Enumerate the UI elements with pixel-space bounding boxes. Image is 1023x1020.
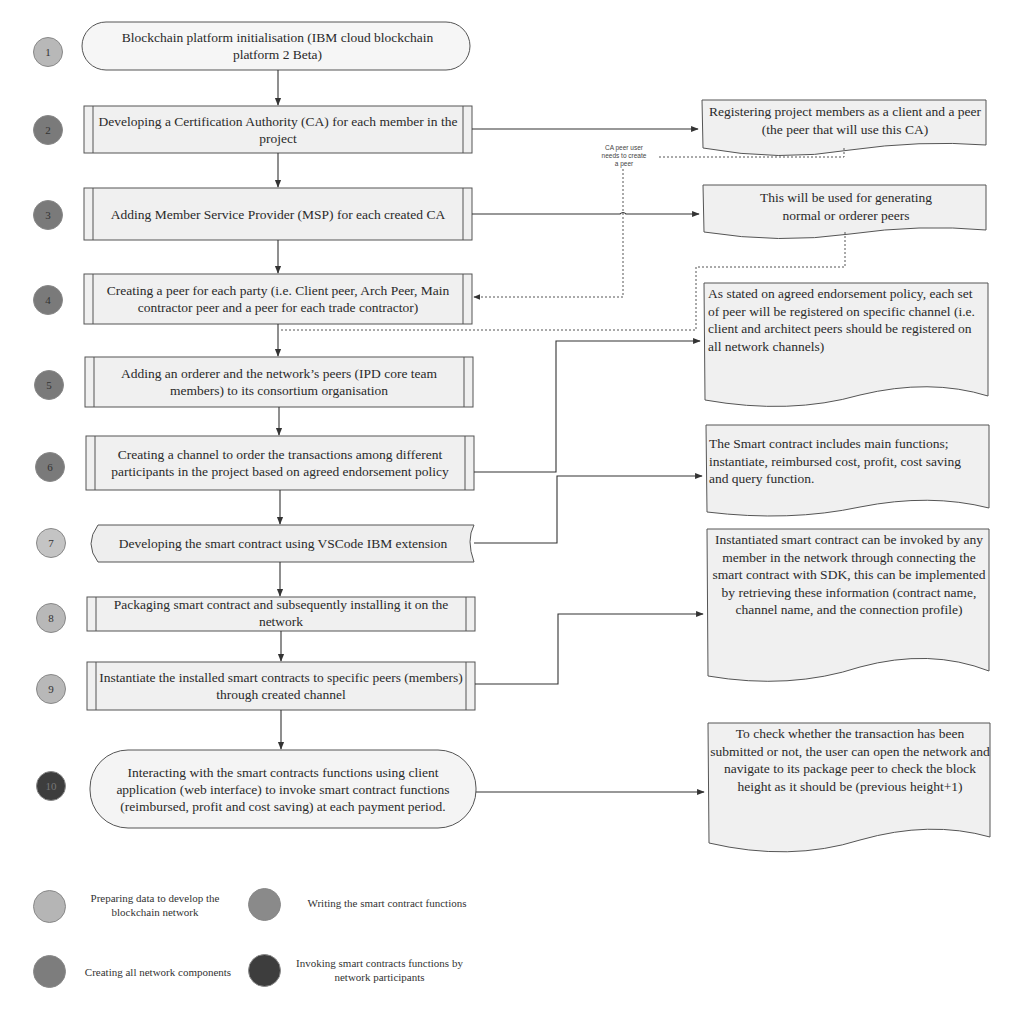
legend-dot-create — [33, 955, 66, 988]
legend-label-write: Writing the smart contract functions — [292, 896, 482, 910]
step-badge-10: 10 — [36, 771, 66, 801]
step-badge-4: 4 — [33, 285, 63, 315]
step-1-text: Blockchain platform initialisation (IBM … — [110, 24, 445, 68]
step-badge-5: 5 — [34, 370, 64, 400]
note-check-text: To check whether the transaction has bee… — [710, 725, 990, 795]
step-2-text: Developing a Certification Authority (CA… — [95, 107, 461, 152]
note-instantiate-text: Instantiated smart contract can be invok… — [709, 531, 989, 619]
step-badge-9: 9 — [36, 674, 66, 704]
flowchart-canvas — [0, 0, 1023, 1020]
legend-dot-prepare — [33, 890, 66, 923]
legend-dot-invoke — [248, 954, 281, 987]
ca-peer-annotation: CA peer user needs to create a peer — [600, 144, 648, 168]
step-badge-8: 8 — [36, 603, 66, 633]
legend-dot-write — [248, 888, 281, 921]
side-connectors — [472, 129, 704, 792]
note-msp-text: This will be used for generating normal … — [740, 189, 952, 224]
step-badge-6: 6 — [35, 452, 65, 482]
note-ca-text: Registering project members as a client … — [706, 103, 984, 138]
step-7-text: Developing the smart contract using VSCo… — [100, 526, 466, 561]
legend-label-invoke: Invoking smart contracts functions by ne… — [292, 956, 467, 984]
step-9-text: Instantiate the installed smart contract… — [98, 663, 464, 709]
step-badge-2: 2 — [33, 115, 63, 145]
step-5-text: Adding an orderer and the network’s peer… — [96, 358, 462, 406]
note-channel-text: As stated on agreed endorsement policy, … — [708, 285, 984, 355]
main-flow-arrows — [278, 70, 281, 749]
step-badge-1: 1 — [33, 37, 63, 67]
legend-label-create: Creating all network components — [78, 965, 238, 979]
step-4-text: Creating a peer for each party (i.e. Cli… — [95, 275, 461, 323]
note-smart-contract-text: The Smart contract includes main functio… — [709, 435, 969, 488]
step-badge-7: 7 — [36, 528, 66, 558]
step-3-text: Adding Member Service Provider (MSP) for… — [95, 189, 461, 239]
step-10-text: Interacting with the smart contracts fun… — [104, 752, 462, 826]
step-8-text: Packaging smart contract and subsequentl… — [98, 596, 464, 630]
step-badge-3: 3 — [33, 200, 63, 230]
step-6-text: Creating a channel to order the transact… — [97, 437, 463, 489]
legend-label-prepare: Preparing data to develop the blockchain… — [80, 891, 230, 919]
